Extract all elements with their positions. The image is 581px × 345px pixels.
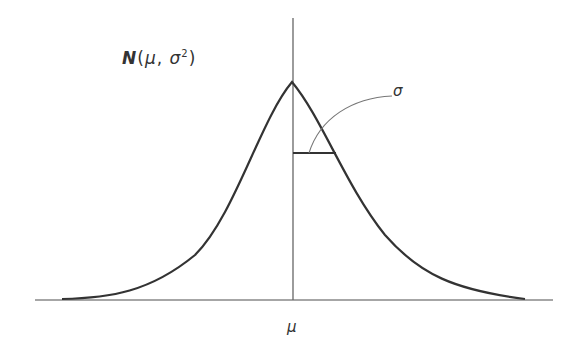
bell-curve-graphic: [0, 0, 581, 345]
sigma-pointer: [309, 96, 392, 153]
distribution-title: N(μ, σ2): [122, 48, 196, 68]
sigma-label: σ: [393, 82, 403, 100]
mean-label: μ: [287, 318, 297, 336]
normal-distribution-diagram: N(μ, σ2) σ μ: [0, 0, 581, 345]
